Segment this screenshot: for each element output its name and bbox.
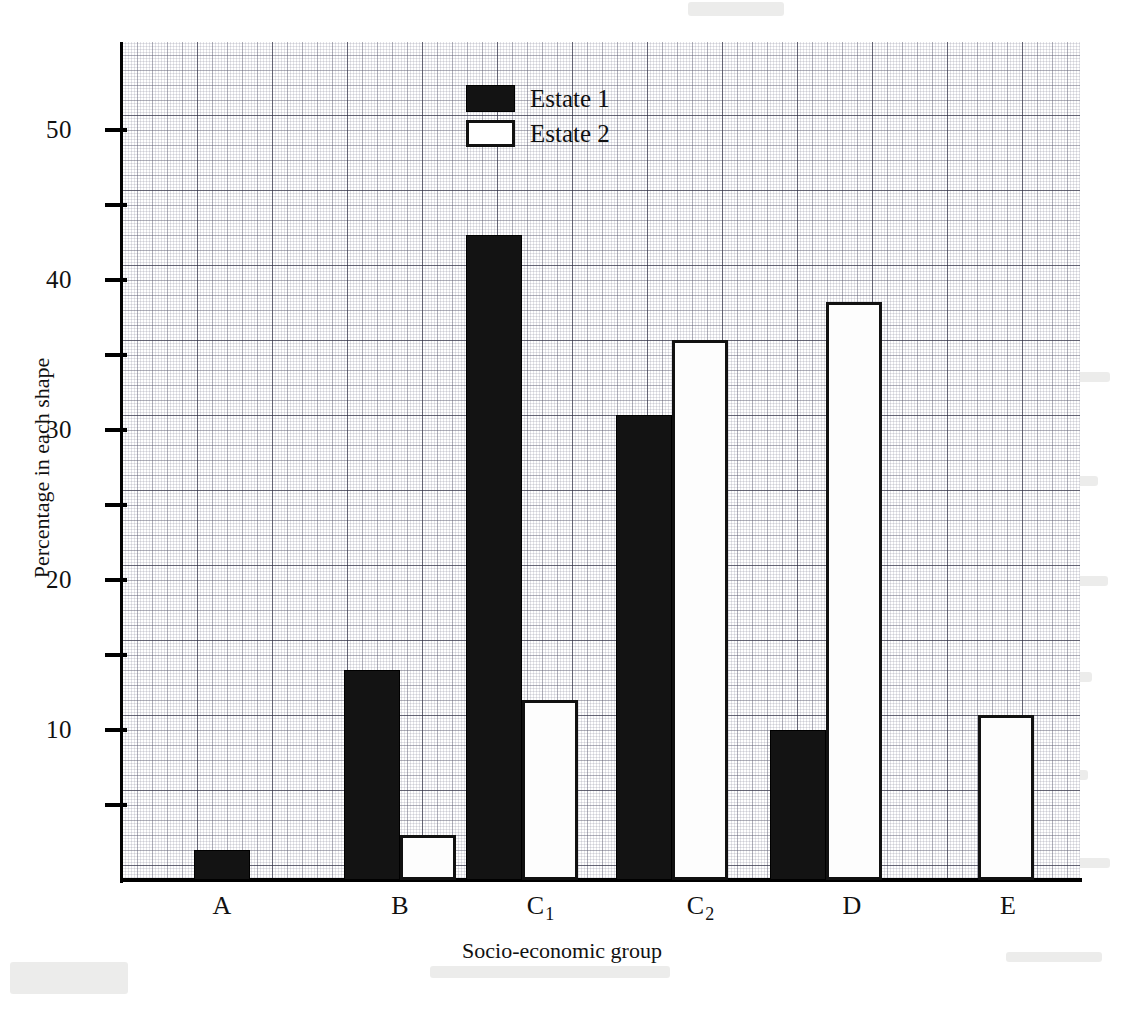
- legend: Estate 1 Estate 2: [466, 82, 696, 152]
- x-axis-title: Socio-economic group: [0, 938, 1124, 964]
- bar-estate2-D: [826, 302, 882, 880]
- y-axis-title: Percentage in each shape: [29, 258, 55, 678]
- y-tick-30: [105, 428, 127, 432]
- y-tick-label-50: 50: [12, 117, 72, 142]
- y-tick-35: [105, 353, 127, 357]
- bar-estate1-C2: [616, 415, 672, 880]
- legend-label-estate-2: Estate 2: [530, 120, 610, 147]
- y-tick-25: [105, 503, 127, 507]
- x-tick-label-C1-main: C: [527, 891, 544, 920]
- x-tick-label-A-main: A: [213, 891, 232, 920]
- legend-item-estate-1: Estate 1: [466, 82, 696, 115]
- x-tick-label-B-main: B: [391, 891, 408, 920]
- x-tick-label-C2: C2: [640, 890, 760, 924]
- x-tick-label-C1-sub: 1: [545, 904, 554, 924]
- bar-estate1-D: [770, 730, 826, 880]
- x-tick-label-C2-main: C: [687, 891, 704, 920]
- scan-artifact: [10, 962, 128, 994]
- y-tick-50: [105, 128, 127, 132]
- legend-label-estate-1: Estate 1: [530, 85, 610, 112]
- bar-chart-figure: 50 40 30 20 10 Percentage in each shape …: [0, 0, 1124, 1012]
- x-axis-line: [120, 878, 1082, 882]
- y-tick-label-10: 10: [12, 717, 72, 742]
- bar-estate1-B: [344, 670, 400, 880]
- bar-estate2-C1: [522, 700, 578, 880]
- y-tick-5: [105, 803, 127, 807]
- x-tick-label-C1: C1: [480, 890, 600, 924]
- y-tick-40: [105, 278, 127, 282]
- legend-swatch-estate-1: [466, 85, 515, 112]
- bar-estate2-B: [400, 835, 456, 880]
- x-tick-label-B: B: [340, 890, 460, 922]
- scan-artifact: [688, 2, 784, 16]
- x-tick-label-D-main: D: [843, 891, 862, 920]
- y-tick-45: [105, 203, 127, 207]
- x-tick-label-A: A: [162, 890, 282, 922]
- bar-estate1-A: [194, 850, 250, 880]
- x-tick-label-E-main: E: [1000, 891, 1016, 920]
- plot-area: [122, 42, 1080, 880]
- x-tick-label-D: D: [792, 890, 912, 922]
- y-tick-10: [105, 728, 127, 732]
- bar-estate1-C1: [466, 235, 522, 880]
- legend-swatch-estate-2: [466, 120, 515, 147]
- bar-estate2-E: [978, 715, 1034, 880]
- legend-item-estate-2: Estate 2: [466, 117, 696, 150]
- scan-artifact: [430, 966, 670, 978]
- x-tick-label-C2-sub: 2: [705, 904, 714, 924]
- y-axis-line: [120, 42, 123, 883]
- bar-estate2-C2: [672, 340, 728, 880]
- y-tick-20: [105, 578, 127, 582]
- x-tick-label-E: E: [948, 890, 1068, 922]
- y-tick-15: [105, 653, 127, 657]
